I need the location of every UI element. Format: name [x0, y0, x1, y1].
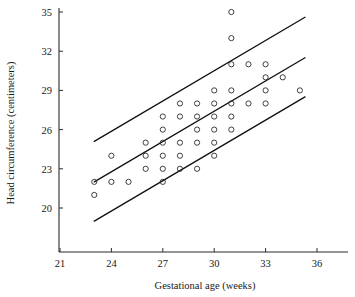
data-point — [92, 192, 97, 197]
data-point — [212, 88, 217, 93]
data-point — [177, 140, 182, 145]
x-tick-label: 24 — [106, 258, 117, 269]
y-tick-label: 26 — [42, 125, 53, 136]
data-point — [246, 101, 251, 106]
y-axis-title: Head circumference (centimeters) — [5, 61, 17, 204]
data-point — [229, 114, 234, 119]
data-point — [229, 62, 234, 67]
x-tick-label: 36 — [312, 258, 323, 269]
data-point — [109, 153, 114, 158]
y-tick-label: 29 — [42, 85, 53, 96]
data-point — [246, 62, 251, 67]
scatter-plot-figure: 212427303336 202326293235 Gestational ag… — [0, 0, 355, 297]
data-point — [177, 114, 182, 119]
y-tick-label: 35 — [42, 7, 53, 18]
data-point — [212, 114, 217, 119]
data-point — [263, 88, 268, 93]
data-point — [194, 101, 199, 106]
data-point — [212, 101, 217, 106]
data-point — [212, 127, 217, 132]
data-point — [194, 140, 199, 145]
x-tick-label: 27 — [158, 258, 169, 269]
data-point — [212, 140, 217, 145]
x-tick-label: 21 — [55, 258, 66, 269]
x-axis-title: Gestational age (weeks) — [155, 280, 256, 292]
data-point — [160, 153, 165, 158]
x-tick-label: 33 — [260, 258, 271, 269]
data-point — [229, 127, 234, 132]
data-point — [212, 153, 217, 158]
data-point — [263, 62, 268, 67]
data-point — [194, 166, 199, 171]
y-tick-label: 23 — [42, 164, 53, 175]
data-point — [177, 101, 182, 106]
x-tick-label: 30 — [209, 258, 220, 269]
data-point — [229, 36, 234, 41]
data-point — [160, 166, 165, 171]
x-axis-ticks-group: 212427303336 — [55, 248, 323, 269]
y-tick-label: 32 — [42, 46, 53, 57]
data-point — [194, 127, 199, 132]
plot-canvas: 212427303336 202326293235 Gestational ag… — [0, 0, 355, 297]
data-point — [126, 179, 131, 184]
data-point — [194, 114, 199, 119]
axes-group — [59, 8, 348, 252]
data-point — [263, 75, 268, 80]
data-point — [160, 127, 165, 132]
y-axis-ticks-group: 202326293235 — [42, 7, 64, 214]
data-point — [229, 88, 234, 93]
data-point — [109, 179, 114, 184]
data-point — [229, 9, 234, 14]
data-point — [143, 140, 148, 145]
data-point — [143, 153, 148, 158]
data-point — [280, 75, 285, 80]
data-point — [177, 153, 182, 158]
data-point — [143, 166, 148, 171]
reference-lines-group — [94, 17, 305, 221]
upper-band-line — [94, 17, 305, 141]
data-point — [160, 114, 165, 119]
data-point — [297, 88, 302, 93]
y-tick-label: 20 — [42, 203, 53, 214]
fit-line — [94, 58, 305, 182]
data-point — [263, 101, 268, 106]
